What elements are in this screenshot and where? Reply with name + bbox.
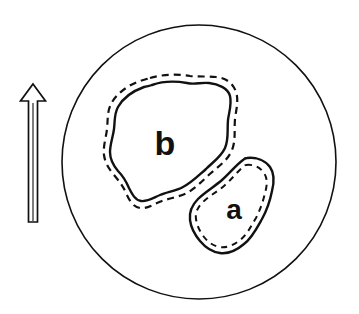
paper-background [0,0,359,314]
diagram-canvas: b a [0,0,359,314]
region-a-label: a [226,194,242,225]
region-b-label: b [155,124,176,162]
figure-root: b a [0,0,359,314]
